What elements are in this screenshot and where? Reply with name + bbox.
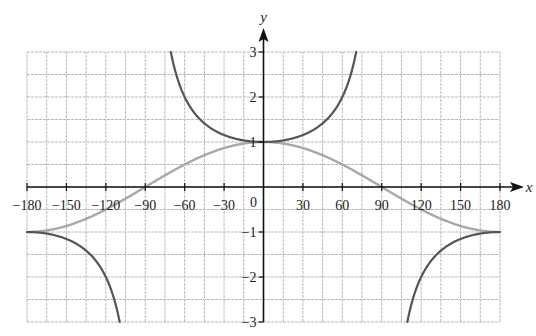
x-tick-label: 60 [335,198,349,213]
x-tick-label: −90 [134,198,156,213]
x-tick-label: 120 [411,198,432,213]
y-tick-label: −2 [242,270,257,285]
tick-labels: −180−150−120−90−60−300306090120150180−3−… [13,9,533,330]
y-axis-label: y [258,9,267,25]
y-tick-label: 3 [250,45,257,60]
x-tick-label: 30 [296,198,310,213]
chart: −180−150−120−90−60−300306090120150180−3−… [0,0,536,336]
x-tick-label: 150 [450,198,471,213]
x-tick-label: 180 [490,198,511,213]
x-tick-label: −60 [174,198,196,213]
x-tick-label: 90 [375,198,389,213]
y-tick-label: 1 [250,135,257,150]
y-tick-label: 2 [250,90,257,105]
x-tick-label: 0 [250,195,257,210]
x-tick-label: −30 [213,198,235,213]
x-tick-label: −180 [13,198,42,213]
x-tick-label: −150 [52,198,81,213]
x-tick-label: −120 [91,198,120,213]
axes [27,28,524,322]
x-axis-label: x [525,179,533,195]
y-tick-label: −1 [242,225,257,240]
y-tick-label: −3 [242,315,257,330]
